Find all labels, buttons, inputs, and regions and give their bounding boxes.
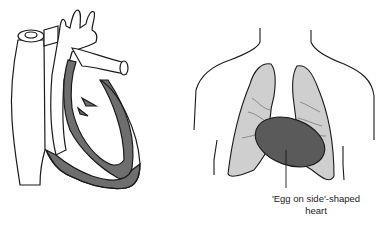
left-arm-line xyxy=(214,140,217,175)
vena-cava xyxy=(11,40,45,185)
left-ventricle-wall xyxy=(64,60,133,179)
pulmonary-vessel xyxy=(44,26,58,46)
valve-leaflet xyxy=(78,108,88,116)
vena-cava-lumen xyxy=(25,32,37,38)
heart-shape-annotation: 'Egg on side'-shaped heart xyxy=(256,193,376,217)
pulmonary-artery xyxy=(72,48,126,74)
diagram-canvas xyxy=(0,0,383,225)
annotation-line-1: 'Egg on side'-shaped xyxy=(256,193,376,205)
valve-leaflet xyxy=(82,98,96,106)
right-arm-line xyxy=(343,146,344,180)
pulmonary-artery-opening xyxy=(120,61,128,75)
annotation-line-2: heart xyxy=(256,205,376,217)
heart-cross-section xyxy=(11,10,140,189)
